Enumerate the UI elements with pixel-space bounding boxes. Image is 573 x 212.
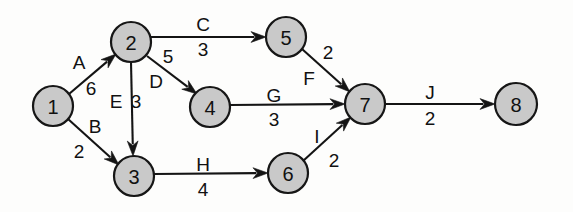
edge-name-D: D [149, 71, 163, 92]
arrow-head-D [182, 81, 197, 94]
node-label-5: 5 [280, 27, 291, 49]
node-7[interactable]: 7 [345, 84, 385, 124]
node-3[interactable]: 3 [114, 156, 154, 196]
edge-weight-E: 3 [131, 91, 142, 112]
node-2[interactable]: 2 [111, 22, 151, 62]
edge-weight-H: 4 [198, 179, 209, 200]
edge-weight-I: 2 [329, 150, 340, 171]
node-4[interactable]: 4 [190, 87, 230, 127]
node-1[interactable]: 1 [33, 86, 73, 126]
node-label-8: 8 [510, 94, 521, 116]
edge-weight-A: 6 [86, 78, 97, 99]
edge-weight-J: 2 [425, 108, 436, 129]
edge-name-J: J [425, 82, 435, 103]
edge-weight-C: 3 [198, 39, 209, 60]
edge-name-I: I [314, 126, 319, 147]
edge-J [385, 99, 495, 110]
network-graph: 12345678 A6B2C3D5E3F2G3H4I2J2 [0, 0, 573, 212]
edge-name-G: G [267, 85, 282, 106]
node-label-4: 4 [204, 97, 215, 119]
node-label-2: 2 [125, 32, 136, 54]
edge-H [154, 168, 268, 179]
node-8[interactable]: 8 [495, 83, 537, 125]
edge-name-E: E [110, 91, 123, 112]
edge-weight-G: 3 [269, 109, 280, 130]
edge-name-B: B [89, 116, 102, 137]
nodes-layer: 12345678 [33, 17, 537, 196]
edge-weight-D: 5 [163, 46, 174, 67]
node-label-7: 7 [359, 94, 370, 116]
node-label-6: 6 [282, 163, 293, 185]
edge-weight-F: 2 [323, 42, 334, 63]
node-label-1: 1 [47, 96, 58, 118]
edge-name-C: C [196, 14, 210, 35]
diagram-canvas: 12345678 A6B2C3D5E3F2G3H4I2J2 [0, 0, 573, 212]
edge-weight-B: 2 [74, 141, 85, 162]
node-label-3: 3 [128, 166, 139, 188]
edge-I [303, 117, 351, 161]
edge-G [230, 99, 345, 110]
edge-name-F: F [303, 68, 315, 89]
edge-name-A: A [73, 52, 86, 73]
node-6[interactable]: 6 [268, 153, 308, 193]
edge-line-G [230, 104, 333, 105]
edge-name-H: H [196, 154, 210, 175]
node-5[interactable]: 5 [266, 17, 306, 57]
